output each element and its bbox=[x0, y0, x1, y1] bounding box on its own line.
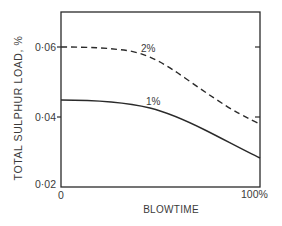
series-2pct-dashed-line bbox=[61, 47, 260, 124]
y-axis-label: TOTAL SULPHUR LOAD, % bbox=[12, 36, 24, 181]
x-tick-label-100: 100% bbox=[241, 188, 268, 200]
y-tick-label-004: 0·04 bbox=[35, 111, 56, 123]
series-label-1pct: 1% bbox=[146, 96, 160, 107]
y-tick-label-002: 0·02 bbox=[35, 178, 56, 190]
plot-frame bbox=[61, 12, 260, 187]
x-axis-label: BLOWTIME bbox=[143, 204, 199, 215]
x-tick-label-0: 0 bbox=[58, 189, 64, 201]
y-tick-label-006: 0·06 bbox=[35, 41, 56, 53]
series-label-2pct: 2% bbox=[141, 43, 155, 54]
